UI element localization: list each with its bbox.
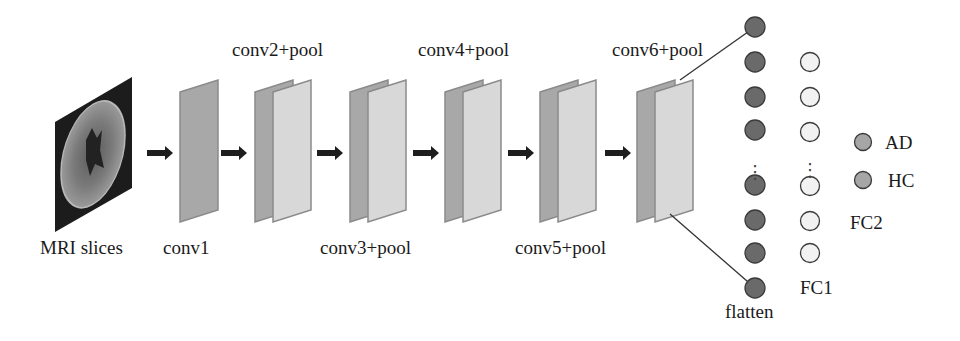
flatten-node xyxy=(745,52,765,72)
mri-slice-image xyxy=(55,77,132,232)
flatten-node xyxy=(745,120,765,140)
flatten-label: flatten xyxy=(725,301,774,322)
feature-map-plate-front xyxy=(558,80,596,222)
feature-map-plate-front xyxy=(463,80,501,222)
fc1-ellipsis: ⋮ xyxy=(801,159,819,180)
layer-conv4 xyxy=(445,80,501,222)
arrow-icon xyxy=(221,146,247,160)
layer-label-conv5: conv5+pool xyxy=(515,237,606,258)
input-label: MRI slices xyxy=(40,237,123,258)
flatten-node xyxy=(745,243,765,263)
fc1-label: FC1 xyxy=(800,277,833,298)
fc1-node xyxy=(801,53,820,72)
flatten-ellipsis: ⋮ xyxy=(746,161,764,182)
layer-conv1 xyxy=(180,80,218,222)
output-node-hc xyxy=(855,172,872,189)
feature-map-plate xyxy=(180,80,218,222)
cnn-diagram: MRI slices conv1 conv2+pool conv3+pool c… xyxy=(0,0,960,341)
layer-conv5 xyxy=(540,80,596,222)
fc1-node xyxy=(801,212,820,231)
layer-label-conv3: conv3+pool xyxy=(320,237,411,258)
layer-conv6 xyxy=(637,80,693,222)
fc1-node xyxy=(801,88,820,107)
layer-conv3 xyxy=(350,80,406,222)
layer-label-conv6: conv6+pool xyxy=(612,39,703,60)
layer-conv2 xyxy=(255,80,311,222)
flatten-connector-bottom xyxy=(670,214,755,288)
output-node-ad xyxy=(855,134,872,151)
feature-map-plate-front xyxy=(368,80,406,222)
layer-label-conv4: conv4+pool xyxy=(418,39,509,60)
layer-label-conv2: conv2+pool xyxy=(232,39,323,60)
flatten-node xyxy=(745,17,765,37)
output-label-ad: AD xyxy=(885,132,912,153)
arrow-icon xyxy=(508,146,534,160)
arrow-icon xyxy=(147,146,173,160)
layer-label-conv1: conv1 xyxy=(163,237,209,258)
arrow-icon xyxy=(605,146,631,160)
fc1-column xyxy=(801,53,820,263)
flatten-node xyxy=(745,278,765,298)
flatten-column xyxy=(745,17,765,298)
output-label-hc: HC xyxy=(888,170,914,191)
fc1-node xyxy=(801,244,820,263)
arrow-icon xyxy=(317,146,343,160)
flatten-node xyxy=(745,87,765,107)
feature-map-plate-front xyxy=(655,80,693,222)
fc2-label: FC2 xyxy=(850,212,883,233)
fc1-node xyxy=(801,123,820,142)
arrow-icon xyxy=(413,146,439,160)
feature-map-plate-front xyxy=(273,80,311,222)
flatten-node xyxy=(745,210,765,230)
